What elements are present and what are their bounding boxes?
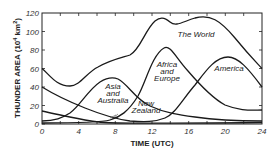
x-tick-12: 12 [148, 127, 157, 136]
thunder-area-chart: 0 20 40 60 80 100 120 0 4 8 12 16 20 24 … [0, 0, 278, 152]
label-asia-3: Australia [96, 96, 129, 105]
svg-text:THUNDER AREA (104 km2): THUNDER AREA (104 km2) [12, 18, 22, 118]
x-tick-8: 8 [113, 127, 118, 136]
x-tick-24: 24 [257, 127, 267, 136]
label-africa-3: Europe [154, 74, 180, 83]
y-tick-60: 60 [30, 65, 39, 74]
y-axis-title: THUNDER AREA (104 km2) [12, 18, 22, 118]
x-tick-4: 4 [76, 127, 81, 136]
world-curve [42, 17, 262, 86]
x-tick-20: 20 [220, 127, 230, 136]
y-tick-40: 40 [30, 83, 39, 92]
label-world: The World [178, 30, 215, 39]
y-tick-20: 20 [29, 102, 39, 111]
label-nz-2: Zealand [131, 106, 161, 115]
x-axis-title: TIME (UTC) [130, 139, 173, 148]
x-tick-16: 16 [184, 127, 193, 136]
y-tick-80: 80 [30, 46, 39, 55]
y-tick-100: 100 [26, 28, 40, 37]
y-tick-120: 120 [26, 9, 40, 18]
x-tick-0: 0 [40, 127, 45, 136]
label-america: America [213, 64, 244, 73]
